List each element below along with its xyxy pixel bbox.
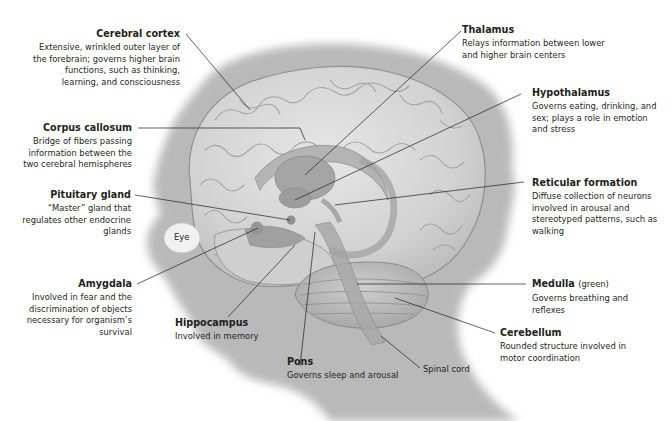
structure-name: Pons [287,355,412,368]
label-medulla: Medulla (green) Governs breathing and re… [532,277,647,316]
structure-name: Cerebral cortex [30,27,180,40]
label-cerebellum: Cerebellum Rounded structure involved in… [500,326,635,364]
brain-diagram: Cerebral cortex Extensive, wrinkled oute… [0,0,671,421]
structure-name: Amygdala [10,277,132,290]
structure-name: Hypothalamus [532,86,662,99]
structure-note: (green) [578,279,609,289]
structure-description: Governs breathing and reflexes [532,293,647,316]
structure-name: Corpus callosum [20,121,132,134]
label-cerebral-cortex: Cerebral cortex Extensive, wrinkled oute… [30,27,180,88]
structure-description: Extensive, wrinkled outer layer of the f… [30,42,180,88]
label-thalamus: Thalamus Relays information between lowe… [462,23,622,61]
structure-description: Relays information between lower and hig… [462,38,622,61]
label-amygdala: Amygdala Involved in fear and the discri… [10,277,132,338]
spinal-cord-label: Spinal cord [423,364,470,374]
structure-description: Bridge of fibers passing information bet… [20,136,132,171]
structure-name: Thalamus [462,23,622,36]
label-pons: Pons Governs sleep and arousal [287,355,412,382]
structure-description: Diffuse collection of neurons involved i… [532,191,664,237]
label-hippocampus: Hippocampus Involved in memory [175,316,285,343]
label-pituitary-gland: Pituitary gland “Master” gland that regu… [18,188,131,238]
structure-description: Governs eating, drinking, and sex; plays… [532,101,662,136]
structure-description: Involved in memory [175,331,285,343]
structure-name: Hippocampus [175,316,285,329]
structure-description: Governs sleep and arousal [287,370,412,382]
eye-label: Eye [174,232,189,242]
structure-name: Medulla [532,278,575,289]
structure-description: Rounded structure involved in motor coor… [500,341,635,364]
structure-name: Pituitary gland [18,188,131,201]
label-reticular-formation: Reticular formation Diffuse collection o… [532,176,664,237]
structure-name-with-note: Medulla (green) [532,277,647,291]
structure-description: “Master” gland that regulates other endo… [18,203,131,238]
structure-description: Involved in fear and the discrimination … [10,292,132,338]
label-corpus-callosum: Corpus callosum Bridge of fibers passing… [20,121,132,171]
structure-name: Cerebellum [500,326,635,339]
label-hypothalamus: Hypothalamus Governs eating, drinking, a… [532,86,662,136]
structure-name: Reticular formation [532,176,664,189]
